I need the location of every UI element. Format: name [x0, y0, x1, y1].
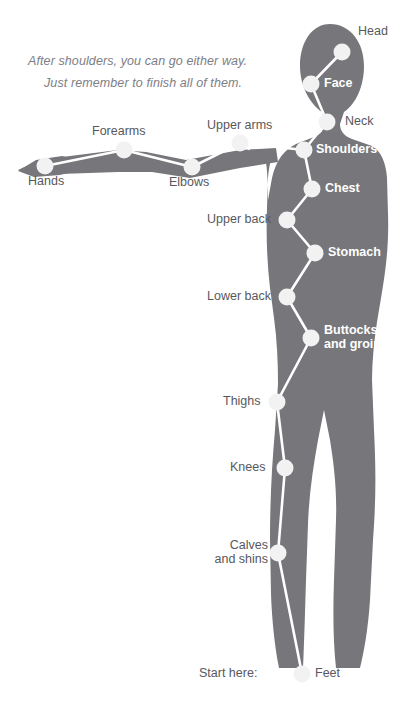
note-line-2: Just remember to finish all of them.	[44, 76, 242, 90]
label-shoulders: Shoulders	[316, 142, 377, 156]
node-lower-back	[279, 289, 296, 306]
node-hands	[37, 158, 54, 175]
node-feet	[294, 666, 311, 683]
label-head: Head	[358, 24, 388, 38]
node-thighs	[269, 394, 286, 411]
label-calves-and-shins: Calves and shins	[196, 538, 268, 567]
node-calves	[270, 545, 287, 562]
label-stomach: Stomach	[328, 245, 381, 259]
node-face	[303, 76, 320, 93]
label-elbows: Elbows	[169, 175, 209, 189]
label-buttocks-and-groin: Buttocks and groin	[324, 323, 381, 352]
label-forearms: Forearms	[92, 124, 145, 138]
label-thighs: Thighs	[223, 394, 261, 408]
node-shoulders	[296, 142, 313, 159]
label-lower-back: Lower back	[207, 289, 271, 303]
label-knees: Knees	[230, 460, 265, 474]
node-head	[334, 44, 351, 61]
node-buttocks	[303, 330, 320, 347]
node-upper-arms	[232, 135, 249, 152]
node-knees	[277, 460, 294, 477]
body-silhouette-and-route	[0, 0, 408, 710]
start-here-label: Start here:	[199, 666, 257, 680]
body-map-diagram: After shoulders, you can go either way. …	[0, 0, 408, 710]
node-forearms	[116, 142, 133, 159]
note-line-1: After shoulders, you can go either way.	[28, 54, 247, 68]
label-face: Face	[324, 76, 353, 90]
label-neck: Neck	[345, 114, 373, 128]
node-chest	[304, 181, 321, 198]
label-upper-arms: Upper arms	[207, 118, 272, 132]
label-chest: Chest	[325, 181, 360, 195]
label-upper-back: Upper back	[207, 212, 271, 226]
label-feet: Feet	[315, 666, 340, 680]
label-hands: Hands	[28, 174, 64, 188]
node-neck	[319, 114, 336, 131]
node-upper-back	[279, 212, 296, 229]
node-stomach	[307, 245, 324, 262]
node-elbows	[184, 159, 201, 176]
